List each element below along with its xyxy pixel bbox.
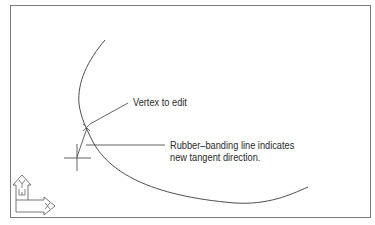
ucs-icon <box>13 175 55 215</box>
rubber-band-annotation: Rubber–banding line indicates new tangen… <box>170 139 294 163</box>
drawing-canvas <box>0 0 375 225</box>
rubber-band-annotation-line2: new tangent direction. <box>170 151 294 163</box>
spline-curve[interactable] <box>79 40 308 203</box>
rubber-band-annotation-line1: Rubber–banding line indicates <box>170 139 294 151</box>
vertex-leader-line <box>90 103 128 124</box>
rubber-band-line <box>77 128 87 157</box>
crosshair-cursor-icon <box>64 144 91 171</box>
vertex-annotation: Vertex to edit <box>133 96 187 108</box>
